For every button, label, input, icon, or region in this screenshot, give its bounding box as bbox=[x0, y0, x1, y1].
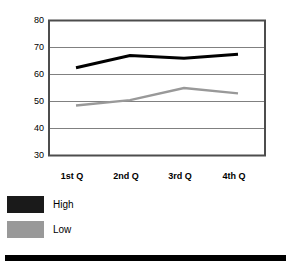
chart-legend: High Low bbox=[7, 196, 207, 244]
series-line-high bbox=[76, 54, 238, 68]
x-tick-label-1st-q: 1st Q bbox=[44, 172, 100, 181]
footer-rule-bar bbox=[5, 255, 286, 261]
line-chart-figure: 80 70 60 50 40 30 1st Q 2nd Q 3rd Q 4th … bbox=[0, 0, 290, 269]
legend-swatch-low bbox=[7, 221, 44, 238]
legend-label-low: Low bbox=[53, 224, 71, 235]
y-tick-label-70: 70 bbox=[22, 43, 44, 52]
y-tick-label-50: 50 bbox=[22, 97, 44, 106]
y-tick-label-40: 40 bbox=[22, 124, 44, 133]
x-tick-label-2nd-q: 2nd Q bbox=[98, 172, 154, 181]
y-axis-tick-labels: 80 70 60 50 40 30 bbox=[22, 0, 44, 195]
plot-border bbox=[49, 21, 265, 156]
y-tick-label-30: 30 bbox=[22, 151, 44, 160]
plot-area-wrapper: 80 70 60 50 40 30 1st Q 2nd Q 3rd Q 4th … bbox=[0, 0, 290, 195]
legend-label-high: High bbox=[53, 199, 74, 210]
legend-swatch-high bbox=[7, 196, 44, 213]
series-line-low bbox=[76, 88, 238, 106]
y-tick-label-80: 80 bbox=[22, 16, 44, 25]
x-tick-label-4th-q: 4th Q bbox=[206, 172, 262, 181]
grid-lines bbox=[49, 48, 265, 129]
x-tick-label-3rd-q: 3rd Q bbox=[152, 172, 208, 181]
y-tick-label-60: 60 bbox=[22, 70, 44, 79]
